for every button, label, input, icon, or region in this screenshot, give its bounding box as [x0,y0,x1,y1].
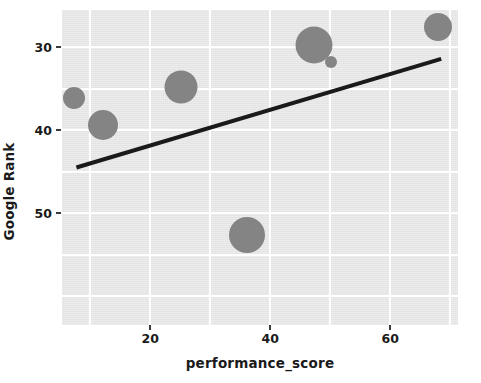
plot-background-texture [62,10,458,325]
x-tick-label: 60 [370,331,410,346]
gridline-horizontal-minor [62,254,458,256]
gridline-horizontal [62,46,458,48]
gridline-horizontal-minor [62,295,458,297]
data-point-bubble [63,87,85,109]
x-tick-mark [269,325,271,330]
gridline-vertical [149,10,151,325]
data-point-bubble [88,110,118,140]
y-tick-mark [56,212,61,214]
y-tick-label: 30 [12,40,52,55]
x-tick-label: 40 [250,331,290,346]
data-point-bubble [165,71,198,104]
gridline-vertical [389,10,391,325]
gridline-horizontal-minor [62,88,458,90]
chart-figure: Google Rank 304050 204060 performance_sc… [0,0,481,383]
x-tick-mark [149,325,151,330]
data-point-bubble [325,56,337,68]
y-tick-mark [56,129,61,131]
y-axis-label: Google Rank [26,0,52,383]
data-point-bubble [424,13,452,41]
y-tick-mark [56,46,61,48]
gridline-vertical-minor [209,10,211,325]
gridline-vertical-minor [449,10,451,325]
trendline [62,10,458,325]
gridline-horizontal-minor [62,171,458,173]
gridline-vertical-minor [89,10,91,325]
y-tick-label: 40 [12,123,52,138]
x-tick-label: 20 [130,331,170,346]
gridline-vertical [269,10,271,325]
data-point-bubble [229,217,265,253]
gridline-horizontal [62,129,458,131]
x-tick-mark [389,325,391,330]
x-axis-label: performance_score [62,355,458,371]
plot-area [62,10,458,325]
gridline-horizontal [62,212,458,214]
y-tick-label: 50 [12,206,52,221]
